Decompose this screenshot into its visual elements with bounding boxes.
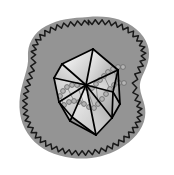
dna-bead-1-8 [100, 97, 105, 102]
dna-bead-1-1 [67, 100, 72, 105]
dna-bead-1-13 [122, 81, 127, 86]
dna-bead-1-4 [82, 102, 87, 107]
virus-figure: Enveloped icosahedral virus particle [0, 0, 174, 175]
dna-bead-0-14 [121, 65, 126, 70]
dna-bead-0-8 [94, 82, 99, 87]
virus-diagram-svg [0, 0, 174, 175]
dna-bead-0-2 [65, 85, 70, 90]
dna-bead-1-6 [92, 106, 97, 111]
dna-bead-0-1 [61, 89, 66, 94]
dna-bead-1-2 [72, 99, 77, 104]
dna-bead-0-3 [70, 83, 75, 88]
dna-bead-1-9 [104, 92, 109, 97]
capsid-edge-20 [112, 92, 113, 118]
